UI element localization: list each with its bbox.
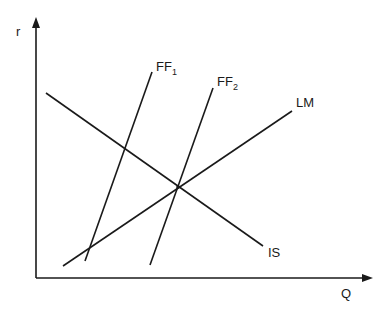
ff1-curve-line <box>85 72 152 261</box>
y-axis: r <box>16 17 40 278</box>
is-curve-line <box>46 93 263 246</box>
x-axis-label: Q <box>341 286 351 301</box>
y-axis-arrow-icon <box>32 17 40 28</box>
ff2-label-subscript: 2 <box>233 82 238 92</box>
ff1-label-subscript: 1 <box>172 67 177 77</box>
is-curve-label: IS <box>268 245 281 260</box>
ff1-label-main: FF <box>156 59 172 74</box>
ff2-curve-line <box>150 88 213 265</box>
lm-curve-label: LM <box>296 95 314 110</box>
ff1-curve-label: FF1 <box>156 59 177 77</box>
x-axis-arrow-icon <box>362 274 373 282</box>
is-curve: IS <box>46 93 281 260</box>
ff1-curve: FF1 <box>85 59 177 261</box>
y-axis-label: r <box>16 24 21 39</box>
ff2-curve-label: FF2 <box>217 74 238 92</box>
lm-curve: LM <box>63 95 314 266</box>
equilibrium-point <box>176 185 180 189</box>
is-lm-ff-diagram: r Q IS LM FF1 FF2 <box>0 0 390 314</box>
x-axis: Q <box>36 274 373 301</box>
ff2-label-main: FF <box>217 74 233 89</box>
ff2-curve: FF2 <box>150 74 238 265</box>
